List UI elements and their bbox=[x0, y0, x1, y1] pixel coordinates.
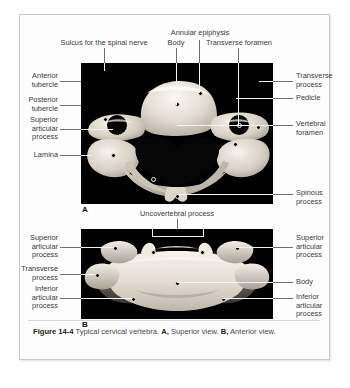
leader-inferior-articular-process-left bbox=[60, 298, 81, 299]
leader-pedicle bbox=[273, 98, 293, 99]
panel-b-anterior-view-photo bbox=[81, 229, 273, 319]
label-uncovertebral-process: Uncovertebral process bbox=[116, 210, 238, 219]
label-posterior-tubercle: Posterior tubercle bbox=[20, 96, 58, 113]
cervical-vertebra-anterior-illustration bbox=[81, 229, 273, 319]
figure-caption: Figure 14-4 Typical cervical vertebra. A… bbox=[33, 327, 315, 337]
panel-a-superior-view-photo bbox=[81, 63, 273, 204]
leader-superior-articular-process-a-inner bbox=[81, 129, 113, 130]
anchor-dot-transverse-process-b bbox=[95, 273, 100, 278]
leader-sulcus-spinal-nerve-top bbox=[104, 48, 105, 63]
label-transverse-foramen: Transverse foramen bbox=[196, 39, 282, 48]
leader-sulcus-spinal-nerve-inner bbox=[104, 63, 105, 71]
label-inferior-articular-process-right: Inferior articular process bbox=[296, 293, 336, 319]
figure-part-b-view: Anterior view. bbox=[228, 327, 275, 336]
anchor-dot-uncovertebral-right bbox=[200, 250, 205, 255]
leader-inferior-articular-process-right-inner bbox=[222, 298, 273, 299]
bracket-uncovertebral-process bbox=[152, 229, 204, 237]
label-annular-epiphysis: Annular epiphysis bbox=[138, 29, 262, 38]
caption-divider bbox=[28, 320, 320, 321]
anchor-dot-superior-articular-process bbox=[111, 153, 116, 158]
anchor-dot-sulcus-spinal-nerve bbox=[103, 117, 108, 122]
leader-inferior-articular-process-left-inner bbox=[81, 298, 132, 299]
leader-transverse-foramen-inner bbox=[238, 63, 239, 125]
label-body-a: Body bbox=[158, 39, 194, 48]
figure-number: Figure 14-4 bbox=[33, 327, 74, 336]
label-transverse-process-a: Transverse process bbox=[296, 72, 336, 89]
label-lamina: Lamina bbox=[20, 151, 58, 160]
label-transverse-process-b: Transverse process bbox=[20, 265, 58, 282]
label-superior-articular-process-left-b: Superior articular process bbox=[20, 234, 58, 260]
label-superior-articular-process-right-b: Superior articular process bbox=[296, 234, 336, 260]
leader-transverse-process-a-inner bbox=[259, 81, 273, 82]
leader-vertebral-foramen bbox=[273, 125, 293, 126]
leader-posterior-tubercle bbox=[60, 105, 81, 106]
label-superior-articular-process-a: Superior articular process bbox=[20, 116, 58, 142]
leader-spinous-process-inner bbox=[177, 194, 273, 195]
panel-a-letter: A bbox=[82, 205, 88, 214]
cervical-vertebra-superior-illustration bbox=[81, 63, 273, 204]
figure-card: Annular epiphysis Sulcus for the spinal … bbox=[19, 14, 330, 360]
leader-uncovertebral-stem bbox=[177, 219, 178, 229]
label-anterior-tubercle: Anterior tubercle bbox=[20, 72, 58, 89]
leader-lamina-inner bbox=[81, 155, 92, 156]
leader-pedicle-inner bbox=[236, 98, 273, 99]
leader-lamina bbox=[60, 155, 81, 156]
label-vertebral-foramen: Vertebral foramen bbox=[296, 120, 336, 137]
leader-transverse-process-b bbox=[60, 274, 81, 275]
anchor-dot-lamina bbox=[151, 177, 156, 182]
leader-superior-articular-process-right-b-inner bbox=[236, 247, 273, 248]
figure-part-a-view: Superior view. bbox=[169, 327, 219, 336]
label-body-b: Body bbox=[296, 278, 336, 287]
leader-body-b bbox=[273, 282, 293, 283]
leader-superior-articular-process-left-b-inner bbox=[81, 247, 113, 248]
leader-spinous-process bbox=[273, 194, 293, 195]
leader-vertebral-foramen-inner bbox=[177, 125, 273, 126]
label-spinous-process: Spinous process bbox=[296, 189, 336, 206]
leader-inferior-articular-process-right bbox=[273, 298, 293, 299]
leader-body-inner bbox=[176, 63, 177, 105]
leader-annular-epiphysis-inner bbox=[199, 63, 200, 93]
figure-caption-text: Typical cervical vertebra. bbox=[74, 327, 162, 336]
leader-transverse-process-b-inner bbox=[81, 274, 95, 275]
leader-superior-articular-process-right-b bbox=[273, 247, 293, 248]
anchor-dot-superior-articular-process-left-b bbox=[113, 246, 118, 251]
leader-superior-articular-process-left-b bbox=[60, 247, 81, 248]
leader-body-b-inner bbox=[177, 282, 273, 283]
leader-body-top bbox=[176, 48, 177, 63]
anchor-dot-uncovertebral-left bbox=[151, 250, 156, 255]
figure-part-a-letter: A, bbox=[161, 327, 169, 336]
leader-transverse-foramen-top bbox=[238, 48, 239, 63]
leader-superior-articular-process-a bbox=[60, 129, 81, 130]
leader-transverse-process-a bbox=[273, 81, 293, 82]
label-inferior-articular-process-left: Inferior articular process bbox=[20, 285, 58, 311]
label-pedicle: Pedicle bbox=[296, 94, 336, 103]
leader-anterior-tubercle bbox=[60, 81, 81, 82]
anchor-dot-pedicle bbox=[233, 142, 238, 147]
